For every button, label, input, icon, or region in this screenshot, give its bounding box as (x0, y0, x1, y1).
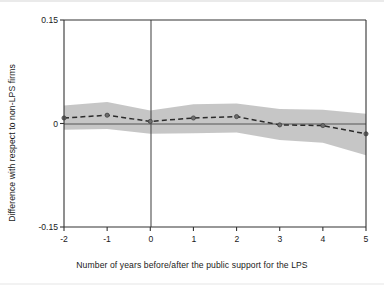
x-tick-label-1: 1 (184, 234, 204, 244)
y-axis-title: Difference with respect to non-LPS firms (7, 38, 17, 248)
x-tick-label-neg2: -2 (54, 234, 74, 244)
x-axis-ticks (64, 227, 366, 231)
y-tick-label-zero: 0 (6, 119, 58, 129)
x-tick-label-neg1: -1 (97, 234, 117, 244)
x-tick-label-4: 4 (313, 234, 333, 244)
y-tick-label-bottom: -0.15 (6, 222, 58, 232)
x-axis-title: Number of years before/after the public … (0, 260, 384, 270)
y-axis-ticks (60, 20, 64, 227)
x-tick-label-0: 0 (141, 234, 161, 244)
x-tick-label-5: 5 (356, 234, 376, 244)
x-tick-label-2: 2 (227, 234, 247, 244)
y-tick-label-top: 0.15 (6, 15, 58, 25)
figure-container: Difference with respect to non-LPS firms… (0, 0, 384, 285)
x-tick-label-3: 3 (270, 234, 290, 244)
